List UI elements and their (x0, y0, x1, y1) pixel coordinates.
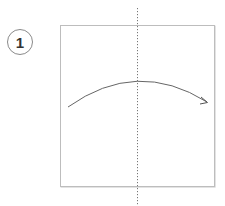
paper-square (61, 26, 215, 187)
fold-diagram (0, 0, 225, 206)
